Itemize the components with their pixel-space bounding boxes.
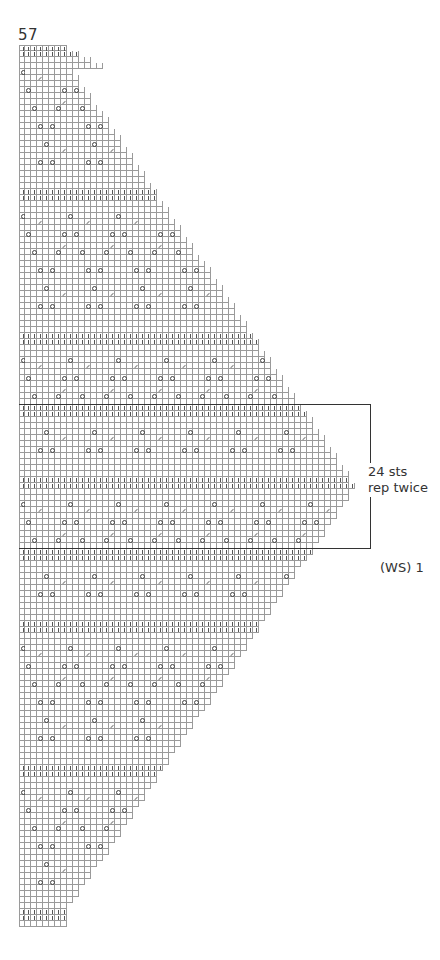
knit-cell <box>295 561 301 567</box>
knit-cell <box>85 873 91 879</box>
knit-cell <box>115 831 121 837</box>
knit-cell <box>241 645 247 651</box>
knit-cell <box>223 669 229 675</box>
knit-cell <box>169 747 175 753</box>
knit-cell <box>187 723 193 729</box>
knit-cell <box>103 849 109 855</box>
knit-cell <box>121 819 127 825</box>
knit-cell <box>283 579 289 585</box>
knit-cell <box>67 897 73 903</box>
knit-cell <box>163 759 169 765</box>
knit-cell <box>205 699 211 705</box>
knit-cell <box>229 663 235 669</box>
knit-cell <box>175 741 181 747</box>
knit-cell <box>91 861 97 867</box>
knit-cell <box>193 711 199 717</box>
knit-cell <box>271 597 277 603</box>
knit-cell <box>79 879 85 885</box>
repeat-label: 24 sts rep twice <box>366 463 428 497</box>
repeat-bracket <box>19 404 371 549</box>
knit-cell <box>199 705 205 711</box>
knit-cell <box>289 573 295 579</box>
knit-cell <box>247 633 253 639</box>
row-1-ws-label: (WS) 1 <box>380 560 424 575</box>
knit-cell <box>97 63 103 69</box>
repeat-label-repeats: rep twice <box>368 480 428 496</box>
knit-cell <box>73 891 79 897</box>
knit-cell <box>181 729 187 735</box>
repeat-label-stitches: 24 sts <box>368 464 428 480</box>
purl-bar-icon <box>301 555 307 561</box>
knit-cell <box>61 921 67 927</box>
chart-number: 57 <box>18 26 38 44</box>
knit-cell <box>277 591 283 597</box>
knit-cell <box>211 687 217 693</box>
knit-cell <box>145 783 151 789</box>
knit-cell <box>217 681 223 687</box>
knit-cell <box>151 777 157 783</box>
purl-bar-icon <box>157 765 163 771</box>
knit-cell <box>235 651 241 657</box>
purl-bar-icon <box>253 627 259 633</box>
knit-cell <box>259 615 265 621</box>
knit-cell <box>97 855 103 861</box>
knit-cell <box>133 801 139 807</box>
purl-bar-icon <box>307 549 313 555</box>
knit-cell <box>109 837 115 843</box>
knit-cell <box>265 609 271 615</box>
knit-cell <box>127 813 133 819</box>
knit-cell <box>139 795 145 801</box>
